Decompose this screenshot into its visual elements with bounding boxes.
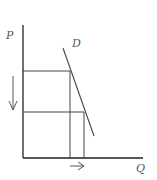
demand-curve-label: D — [71, 37, 81, 50]
demand-curve — [63, 48, 94, 136]
demand-diagram: P Q D — [0, 0, 157, 180]
x-axis-label: Q — [136, 162, 145, 175]
quantity-increase-arrow-icon — [70, 162, 84, 170]
y-axis-label: P — [5, 29, 14, 42]
price-decrease-arrow-icon — [9, 76, 17, 110]
